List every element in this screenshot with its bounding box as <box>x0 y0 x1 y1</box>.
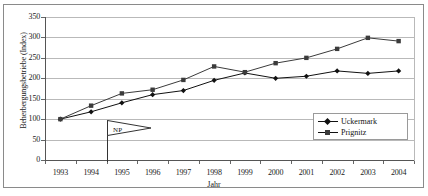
data-point <box>396 39 400 43</box>
data-point <box>396 68 401 73</box>
legend-item-uckermark: Uckermark <box>318 116 403 127</box>
data-point <box>150 92 155 97</box>
data-point <box>366 36 370 40</box>
legend-item-prignitz: Prignitz <box>318 127 403 138</box>
np-flag-annotation: NP <box>100 118 152 162</box>
legend-label-uckermark: Uckermark <box>338 117 377 126</box>
data-point <box>304 56 308 60</box>
data-point <box>58 117 62 121</box>
data-point <box>212 64 216 68</box>
data-point <box>335 68 340 73</box>
data-point <box>365 71 370 76</box>
legend-label-prignitz: Prignitz <box>338 128 366 137</box>
data-point <box>120 91 124 95</box>
data-point <box>304 74 309 79</box>
data-point <box>150 88 154 92</box>
data-point <box>335 47 339 51</box>
data-point <box>89 109 94 114</box>
plot-area: 050100150200250300350 199319941995199619… <box>0 0 428 196</box>
data-point <box>273 61 277 65</box>
chart-figure: 050100150200250300350 199319941995199619… <box>0 0 428 196</box>
legend-marker-diamond-icon <box>318 116 338 127</box>
data-point <box>243 70 247 74</box>
data-point <box>119 100 124 105</box>
data-point <box>181 88 186 93</box>
data-point <box>181 78 185 82</box>
data-point <box>89 103 93 107</box>
data-point <box>212 78 217 83</box>
data-point <box>273 76 278 81</box>
legend-marker-square-icon <box>318 127 338 138</box>
series-layer <box>0 0 428 196</box>
x-axis-label: Jahr <box>0 180 428 189</box>
legend: Uckermark Prignitz <box>313 113 408 140</box>
np-flag-label: NP <box>113 126 122 134</box>
series-line-prignitz <box>60 38 398 119</box>
series-line-uckermark <box>60 71 398 119</box>
y-axis-label: Beherbergungsbetriebe (Index) <box>19 6 28 156</box>
